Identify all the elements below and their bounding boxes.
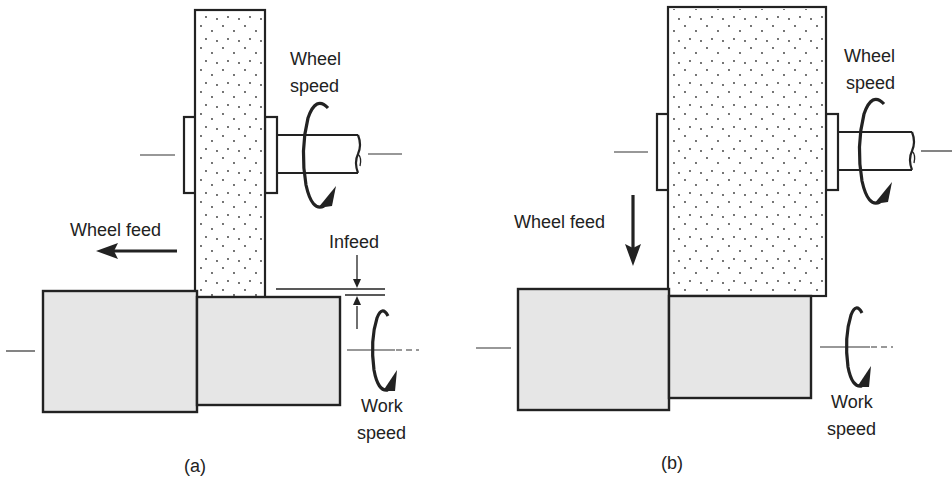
spindle-shaft xyxy=(277,135,361,173)
wheel-speed-rotation-icon xyxy=(859,99,892,204)
wheel-speed-rotation-icon xyxy=(303,103,336,208)
work-speed-label-line2: speed xyxy=(827,419,876,439)
wheel-speed-label-line2: speed xyxy=(846,73,895,93)
spindle-shaft xyxy=(838,132,915,170)
workpiece-ground xyxy=(43,291,197,412)
wheel-feed-left-arrow-icon xyxy=(96,243,177,259)
grinding-diagram: Wheel speed Wheel feed Infeed xyxy=(0,0,952,487)
flange-right xyxy=(265,117,277,193)
work-speed-rotation-icon xyxy=(373,311,397,391)
flange-right xyxy=(826,114,838,190)
wheel-feed-down-arrow-icon xyxy=(625,195,641,266)
infeed-label: Infeed xyxy=(329,232,379,252)
abrasive-grit xyxy=(670,9,824,294)
work-speed-label-line2: speed xyxy=(357,423,406,443)
wheel-speed-label-line1: Wheel xyxy=(844,46,895,66)
panel-b-caption: (b) xyxy=(661,453,683,473)
workpiece-unground xyxy=(197,297,340,405)
wheel-feed-label: Wheel feed xyxy=(70,220,161,240)
wheel-speed-label-line2: speed xyxy=(290,76,339,96)
workpiece-unground xyxy=(669,296,811,398)
wheel-speed-label-line1: Wheel xyxy=(290,49,341,69)
panel-b: Wheel speed Wheel feed Work speed (b) xyxy=(476,7,952,473)
panel-a: Wheel speed Wheel feed Infeed xyxy=(6,10,419,476)
work-speed-label-line1: Work xyxy=(361,396,404,416)
wheel-feed-label: Wheel feed xyxy=(514,212,605,232)
abrasive-grit xyxy=(197,12,263,296)
panel-a-caption: (a) xyxy=(184,456,206,476)
workpiece-ground xyxy=(518,289,669,410)
work-speed-label-line1: Work xyxy=(831,392,874,412)
